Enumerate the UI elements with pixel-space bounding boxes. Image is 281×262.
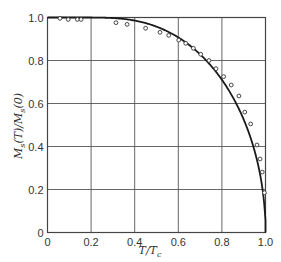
data-point bbox=[114, 21, 118, 25]
x-tick-label: 0 bbox=[44, 236, 50, 248]
data-point bbox=[207, 59, 211, 63]
data-point bbox=[66, 18, 70, 22]
data-point bbox=[214, 67, 218, 71]
y-tick-label: 0.6 bbox=[28, 98, 43, 110]
x-axis-label: T/Tc bbox=[139, 244, 162, 259]
x-tick-label: 0.8 bbox=[214, 236, 229, 248]
y-axis-label: Ms(T)/Ms(0) bbox=[12, 93, 27, 160]
y-tick-label: 0.2 bbox=[28, 184, 43, 196]
data-point bbox=[255, 143, 259, 147]
y-axis-ticks: 00.20.40.60.81.0 bbox=[28, 12, 43, 239]
magnetization-chart: 00.20.40.60.81.0 00.20.40.60.81.0 T/Tc M… bbox=[0, 0, 281, 262]
data-point bbox=[144, 26, 148, 30]
data-point bbox=[229, 83, 233, 87]
data-point bbox=[237, 94, 241, 98]
data-point bbox=[258, 157, 262, 161]
x-tick-label: 0.6 bbox=[171, 236, 186, 248]
x-tick-label: 0.2 bbox=[83, 236, 98, 248]
theory-curve bbox=[48, 18, 266, 233]
data-point bbox=[249, 122, 253, 126]
y-tick-label: 0.8 bbox=[28, 55, 43, 67]
data-point bbox=[243, 110, 247, 114]
x-axis-ticks: 00.20.40.60.81.0 bbox=[44, 236, 273, 248]
y-tick-label: 1.0 bbox=[28, 12, 43, 24]
data-point bbox=[158, 30, 162, 34]
data-point bbox=[263, 191, 267, 195]
data-point bbox=[222, 75, 226, 79]
data-point bbox=[184, 41, 188, 45]
grid-lines bbox=[48, 18, 266, 233]
data-point bbox=[199, 52, 203, 56]
plot-frame bbox=[48, 18, 266, 233]
data-point bbox=[167, 33, 171, 37]
data-point bbox=[58, 16, 62, 20]
y-tick-label: 0 bbox=[37, 227, 43, 239]
data-point bbox=[177, 38, 181, 42]
y-tick-label: 0.4 bbox=[28, 141, 43, 153]
x-tick-label: 1.0 bbox=[258, 236, 273, 248]
data-point bbox=[79, 18, 83, 22]
data-point bbox=[191, 46, 195, 50]
experimental-points bbox=[58, 16, 266, 194]
data-point bbox=[260, 170, 264, 174]
data-point bbox=[125, 22, 129, 26]
data-point bbox=[75, 18, 79, 22]
